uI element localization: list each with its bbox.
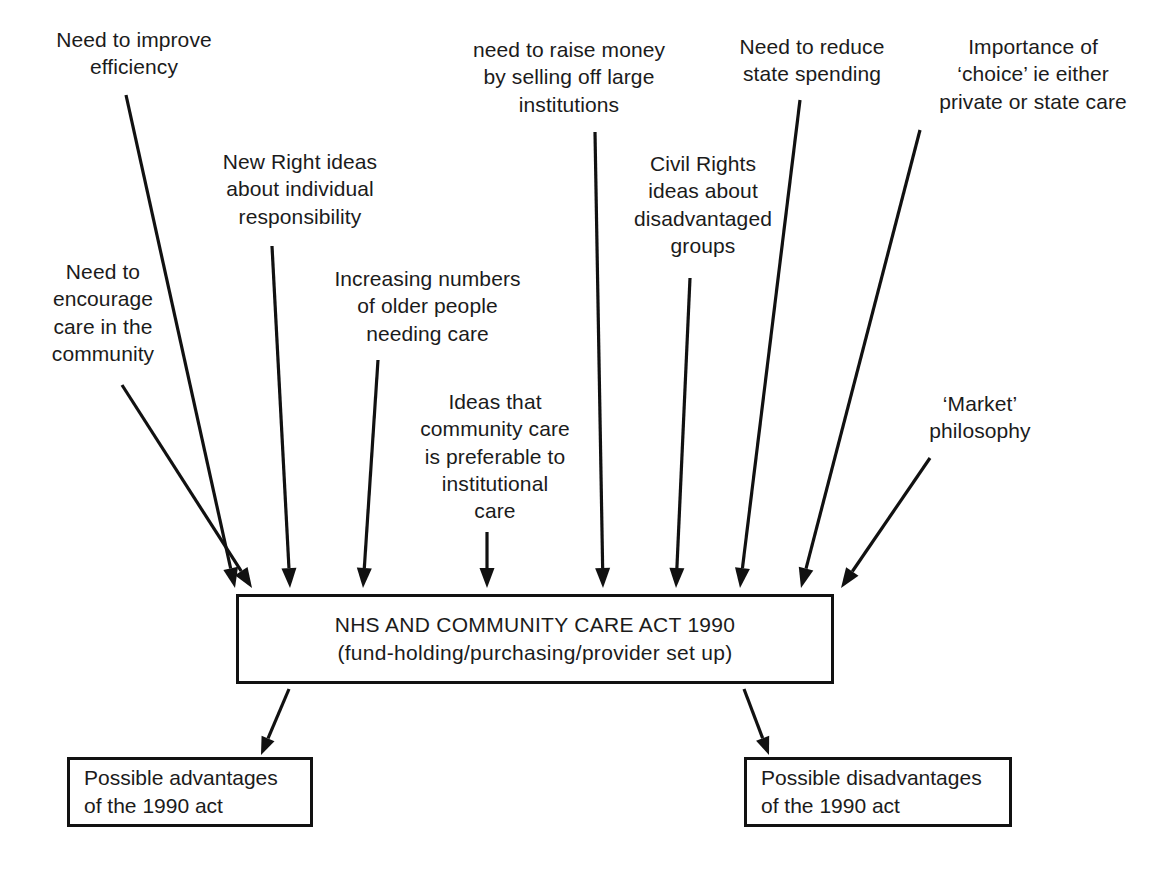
outcome-arrow-possible-disadvantages-head	[756, 736, 769, 755]
factor-arrow-importance-of-choice-shaft	[806, 130, 920, 569]
factor-arrow-civil-rights-disadvantaged-shaft	[677, 278, 690, 568]
outcome-arrow-possible-disadvantages-shaft	[744, 689, 763, 738]
factor-arrow-new-right-ideas	[272, 246, 296, 588]
factor-label-community-care-preferable: Ideas that community care is preferable …	[400, 388, 590, 524]
outcome-box-possible-disadvantages: Possible disadvantages of the 1990 act	[744, 757, 1012, 827]
factor-label-encourage-care-community: Need to encourage care in the community	[28, 258, 178, 367]
factor-arrow-civil-rights-disadvantaged-head	[669, 568, 684, 588]
factor-arrow-market-philosophy	[841, 458, 930, 588]
factor-arrow-community-care-preferable	[480, 532, 495, 588]
factor-arrow-encourage-care-community	[122, 385, 252, 588]
factor-arrow-new-right-ideas-head	[281, 568, 296, 588]
outcome-text-possible-disadvantages: Possible disadvantages of the 1990 act	[761, 764, 982, 820]
factor-arrow-encourage-care-community-head	[235, 567, 252, 588]
factor-arrow-increasing-older-people-head	[357, 568, 372, 588]
factor-arrow-improve-efficiency-head	[223, 567, 238, 588]
outcome-box-possible-advantages: Possible advantages of the 1990 act	[67, 757, 313, 827]
act-box-title-line-2: (fund-holding/purchasing/provider set up…	[337, 639, 732, 667]
factor-arrow-raise-money-selling-institutions-shaft	[595, 132, 603, 568]
act-box-title-line-1: NHS AND COMMUNITY CARE ACT 1990	[335, 611, 736, 639]
factor-arrow-civil-rights-disadvantaged	[669, 278, 690, 588]
factor-label-improve-efficiency: Need to improve efficiency	[24, 26, 244, 81]
factor-label-civil-rights-disadvantaged: Civil Rights ideas about disadvantaged g…	[618, 150, 788, 259]
factor-arrow-encourage-care-community-shaft	[122, 385, 241, 571]
factor-label-new-right-ideas: New Right ideas about individual respons…	[205, 148, 395, 230]
factor-arrow-increasing-older-people-shaft	[364, 360, 378, 568]
factor-arrow-reduce-state-spending-head	[735, 567, 750, 588]
diagram-canvas: Need to improve efficiencyNew Right idea…	[0, 0, 1151, 873]
factor-arrow-importance-of-choice-head	[799, 567, 814, 588]
factor-arrow-community-care-preferable-head	[480, 568, 495, 588]
outcome-arrow-possible-advantages	[261, 689, 289, 755]
factor-arrow-market-philosophy-shaft	[852, 458, 930, 571]
factor-arrow-raise-money-selling-institutions-head	[595, 568, 610, 588]
outcome-arrow-possible-advantages-head	[261, 736, 274, 755]
factor-arrow-raise-money-selling-institutions	[595, 132, 610, 588]
outcome-arrow-possible-advantages-shaft	[268, 689, 289, 738]
nhs-community-care-act-box: NHS AND COMMUNITY CARE ACT 1990 (fund-ho…	[236, 594, 834, 684]
factor-arrow-market-philosophy-head	[841, 567, 858, 588]
outcome-text-possible-advantages: Possible advantages of the 1990 act	[84, 764, 278, 820]
factor-label-reduce-state-spending: Need to reduce state spending	[722, 33, 902, 88]
factor-label-market-philosophy: ‘Market’ philosophy	[900, 390, 1060, 445]
factor-label-raise-money-selling-institutions: need to raise money by selling off large…	[455, 36, 683, 118]
factor-label-increasing-older-people: Increasing numbers of older people needi…	[320, 265, 535, 347]
factor-arrow-new-right-ideas-shaft	[272, 246, 289, 568]
factor-label-importance-of-choice: Importance of ‘choice’ ie either private…	[922, 33, 1144, 115]
factor-arrow-increasing-older-people	[357, 360, 378, 588]
outcome-arrow-possible-disadvantages	[744, 689, 769, 755]
factor-arrow-importance-of-choice	[799, 130, 920, 588]
